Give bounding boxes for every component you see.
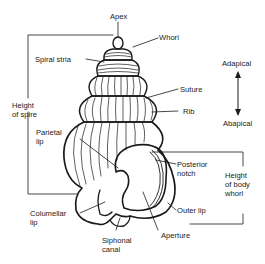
label-apex: Apex xyxy=(110,12,127,21)
label-spiral-stria: Spiral stria xyxy=(35,55,71,64)
label-whorl: Whorl xyxy=(159,33,179,42)
aperture-outline xyxy=(115,145,166,211)
apex-shape xyxy=(113,37,123,49)
whorl-1 xyxy=(104,49,132,60)
label-height-of-spire: Height of spire xyxy=(12,101,37,119)
label-siphonal-canal: Siphonal canal xyxy=(102,236,132,254)
label-parietal-lip: Parietal lip xyxy=(36,128,62,146)
label-posterior-notch: Posterior notch xyxy=(177,160,207,178)
label-columellar-lip: Columellar lip xyxy=(30,209,66,227)
label-height-of-body-whorl: Height of body whorl xyxy=(225,171,250,198)
body-whorl xyxy=(64,122,175,225)
label-aperture: Aperture xyxy=(161,231,190,240)
label-suture: Suture xyxy=(180,85,202,94)
label-rib: Rib xyxy=(183,107,194,116)
label-outer-lip: Outer lip xyxy=(177,206,206,215)
label-adapical: Adapical xyxy=(222,59,251,68)
whorl-3 xyxy=(89,76,147,96)
label-abapical: Abapical xyxy=(223,119,252,128)
